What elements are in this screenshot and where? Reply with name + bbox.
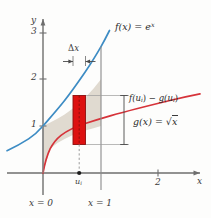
sample-point-dot [77, 171, 81, 175]
height-label-minus: − [146, 93, 159, 103]
upper-function-label: f(x) = ex [115, 22, 155, 32]
sqrt-radical-icon: √ [166, 116, 172, 127]
left-boundary-label: x = 0 [29, 199, 53, 208]
delta-x-arrow-right-head [86, 59, 91, 63]
y-tick-label-3: 3 [31, 27, 37, 36]
y-axis-arrowhead [41, 19, 46, 26]
figure-canvas: y x 1 2 3 2 f(x) = ex g(x) = √x f(ui) − … [0, 0, 211, 218]
right-boundary-label: x = 1 [88, 199, 112, 208]
lower-function-lhs: g(x) [133, 116, 152, 127]
height-label-f: f(u [129, 93, 141, 103]
height-label-g: g(u [159, 93, 173, 103]
rectangle-height-label: f(ui) − g(ui) [129, 94, 178, 104]
lower-function-equals: = [152, 116, 166, 127]
lower-function-label: g(x) = √x [133, 117, 178, 127]
upper-function-equals: = [131, 21, 145, 32]
upper-function-lhs: f(x) [115, 21, 131, 32]
y-tick-label-1: 1 [31, 120, 37, 129]
upper-function-exponent: x [151, 21, 155, 29]
height-label-g-close: ) [175, 93, 178, 103]
x-axis-arrowhead [194, 171, 201, 176]
x-tick-label-2: 2 [155, 178, 161, 187]
shaded-region-between-curves [43, 79, 101, 173]
y-axis-label: y [31, 16, 36, 25]
delta-x-variable: x [74, 43, 79, 53]
sample-point-label: ui [75, 178, 82, 187]
sample-point-subscript: i [80, 180, 82, 186]
lower-function-radicand: x [172, 115, 178, 127]
delta-x-arrow-left-head [68, 59, 73, 63]
y-tick-label-2: 2 [31, 73, 37, 82]
delta-x-label: Δx [68, 44, 79, 53]
x-axis-label: x [197, 177, 202, 186]
